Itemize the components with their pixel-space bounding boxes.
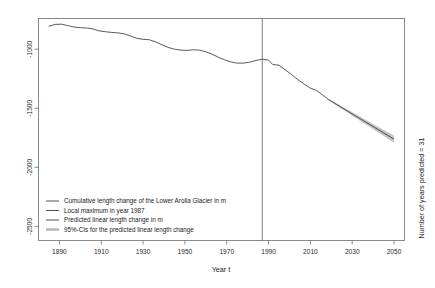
x-axis-title: Year t — [212, 265, 231, 274]
y-tick-label: -1000 — [26, 40, 33, 57]
y-tick-label: -2500 — [26, 218, 33, 235]
y-axis-ticks: -1000-1500-2000-2500 — [26, 40, 39, 234]
y-tick-label: -2000 — [26, 159, 33, 176]
legend-label: Local maximum in year 1987 — [64, 207, 145, 215]
x-tick-label: 1890 — [52, 248, 67, 255]
legend-label: Cumulative length change of the Lower Ar… — [64, 197, 226, 205]
x-tick-label: 1990 — [261, 248, 276, 255]
legend-label: 95%-CIs for the predicted linear length … — [64, 226, 194, 234]
x-tick-label: 1910 — [94, 248, 109, 255]
prediction-series-line — [329, 100, 394, 139]
glacier-length-change-chart: 189019101930195019701990201020302050 -10… — [0, 0, 435, 288]
x-tick-label: 1970 — [219, 248, 234, 255]
legend-label: Predicted linear length change in m — [64, 216, 163, 224]
x-axis-ticks: 189019101930195019701990201020302050 — [52, 241, 402, 255]
x-tick-label: 2030 — [345, 248, 360, 255]
right-axis-label: Number of years predicted = 31 — [417, 138, 426, 239]
chart-legend: Cumulative length change of the Lower Ar… — [46, 197, 226, 234]
x-tick-label: 1930 — [136, 248, 151, 255]
observed-series-line — [49, 24, 329, 100]
x-tick-label: 2050 — [387, 248, 402, 255]
x-tick-label: 2010 — [303, 248, 318, 255]
y-tick-label: -1500 — [26, 99, 33, 116]
x-tick-label: 1950 — [178, 248, 193, 255]
